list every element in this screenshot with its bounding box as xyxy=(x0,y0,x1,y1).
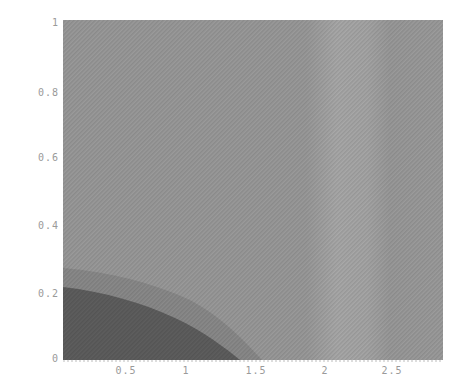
y-tick-label: 0.8 xyxy=(38,87,59,98)
x-tick-label: 2 xyxy=(321,365,328,376)
region-plot: 1 0.8 0.6 0.4 0.2 0 0.5 1 1.5 2 2.5 xyxy=(0,0,467,391)
y-tick-label: 0.2 xyxy=(38,288,59,299)
y-tick-label: 0.4 xyxy=(38,220,59,231)
x-tick-label: 0.5 xyxy=(115,365,136,376)
y-tick-label: 0 xyxy=(52,353,59,364)
x-tick-label: 2.5 xyxy=(381,365,402,376)
y-tick-label: 1 xyxy=(52,17,59,28)
x-tick-label: 1.5 xyxy=(245,365,266,376)
x-tick-label: 1 xyxy=(182,365,189,376)
dither-texture xyxy=(63,20,443,360)
y-tick-label: 0.6 xyxy=(38,152,59,163)
plot-canvas xyxy=(0,0,467,391)
